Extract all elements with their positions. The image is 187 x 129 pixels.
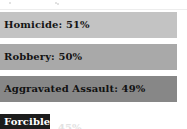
artifact-dot [57, 3, 59, 5]
bar-aggravated-assault[interactable]: Aggravated Assault: 49% [0, 76, 177, 102]
bar-chart: Homicide: 51% Robbery: 50% Aggravated As… [0, 0, 187, 129]
bar-label-forcible: Forcible [0, 117, 50, 127]
bar-robbery[interactable]: Robbery: 50% [0, 44, 177, 70]
bar-label-aggravated-assault: Aggravated Assault: 49% [0, 84, 145, 94]
clipped-top-row [0, 0, 187, 9]
bar-label-robbery: Robbery: 50% [0, 52, 82, 62]
bar-forcible[interactable]: Forcible [0, 114, 50, 129]
row-divider [0, 9, 187, 10]
artifact-dot [9, 2, 11, 4]
bar-homicide[interactable]: Homicide: 51% [0, 12, 177, 38]
clipped-value-text: 45% [58, 122, 88, 129]
bar-label-homicide: Homicide: 51% [0, 20, 90, 30]
